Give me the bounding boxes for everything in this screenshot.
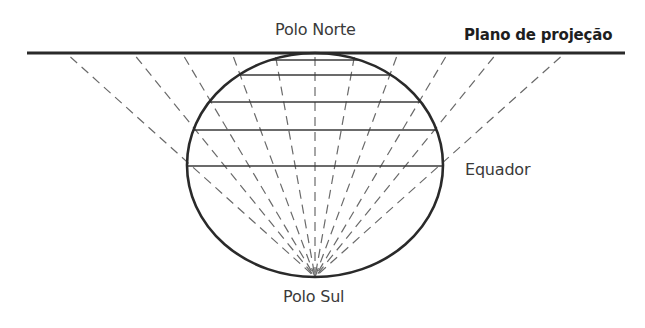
equator-label: Equador	[465, 162, 530, 178]
projection-ray	[70, 57, 315, 277]
south-pole-label: Polo Sul	[283, 289, 344, 305]
projection-ray	[233, 57, 315, 277]
projection-ray	[315, 57, 397, 277]
projection-plane-label: Plano de projeção	[464, 28, 612, 43]
stereographic-projection-diagram	[0, 0, 645, 328]
north-pole-label: Polo Norte	[275, 22, 356, 38]
